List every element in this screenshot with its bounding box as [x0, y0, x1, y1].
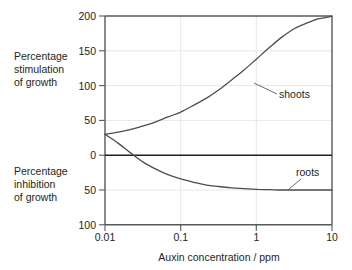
x-tick-label: 0.1 [173, 231, 188, 243]
series-label-shoots: shoots [279, 88, 310, 100]
shoots-label-leader-line [254, 83, 277, 94]
x-axis-tick-marks [105, 225, 332, 231]
y-tick-label: 200 [78, 10, 96, 22]
y-tick-label: 100 [78, 219, 96, 231]
x-tick-label: 10 [326, 231, 338, 243]
series-label-roots: roots [296, 166, 319, 178]
y-tick-label: 50 [84, 114, 96, 126]
x-axis-tick-labels: 0.01 0.1 1 10 [95, 231, 338, 243]
y-tick-label: 150 [78, 45, 96, 57]
x-tick-label: 1 [253, 231, 259, 243]
y-axis-tick-labels: 200 150 100 50 0 50 100 [78, 10, 96, 231]
x-tick-label: 0.01 [95, 231, 116, 243]
y-tick-label: 0 [90, 149, 96, 161]
y-tick-label: 50 [84, 184, 96, 196]
y-axis-tick-marks [99, 16, 105, 225]
series-line-shoots [105, 16, 332, 134]
auxin-response-chart-figure: Percentage stimulation of growth Percent… [0, 0, 352, 270]
y-tick-label: 100 [78, 80, 96, 92]
roots-label-leader-line [288, 179, 301, 190]
chart-plot-svg: 200 150 100 50 0 50 100 0.01 0.1 1 10 Au… [0, 0, 352, 270]
x-axis-title: Auxin concentration / ppm [158, 251, 280, 263]
